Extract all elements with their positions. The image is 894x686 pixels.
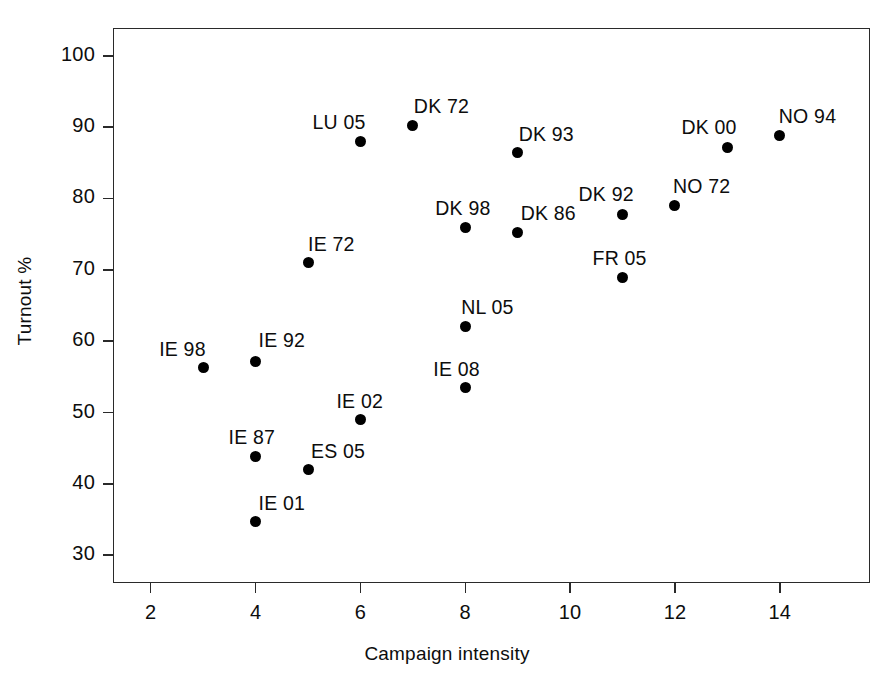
- x-tick-label: 14: [740, 601, 820, 624]
- y-tick-mark: [103, 340, 113, 342]
- data-point: [355, 136, 366, 147]
- data-point: [303, 257, 314, 268]
- data-point-label: DK 98: [435, 197, 490, 220]
- data-point-label: DK 86: [521, 202, 576, 225]
- data-point: [303, 464, 314, 475]
- x-tick-mark: [360, 583, 362, 593]
- data-point: [250, 451, 261, 462]
- data-point-label: IE 72: [308, 233, 355, 256]
- data-point-label: FR 05: [593, 247, 647, 270]
- x-tick-mark: [674, 583, 676, 593]
- x-tick-mark: [569, 583, 571, 593]
- data-point: [460, 222, 471, 233]
- x-tick-label: 10: [530, 601, 610, 624]
- data-point-label: IE 02: [336, 390, 383, 413]
- y-axis-label: Turnout %: [14, 221, 36, 381]
- y-tick-label: 80: [3, 185, 95, 208]
- x-tick-label: 12: [635, 601, 715, 624]
- data-point: [250, 356, 261, 367]
- data-point-label: NO 94: [779, 105, 836, 128]
- x-axis-label: Campaign intensity: [0, 643, 894, 665]
- x-tick-mark: [779, 583, 781, 593]
- x-tick-label: 8: [425, 601, 505, 624]
- data-point: [512, 227, 523, 238]
- data-point-label: IE 98: [159, 338, 206, 361]
- y-tick-mark: [103, 126, 113, 128]
- data-point-label: ES 05: [311, 440, 365, 463]
- data-point-label: NO 72: [673, 175, 730, 198]
- x-tick-mark: [465, 583, 467, 593]
- y-tick-mark: [103, 412, 113, 414]
- data-point-label: DK 93: [519, 123, 574, 146]
- data-point-label: IE 08: [433, 358, 480, 381]
- y-tick-label: 100: [3, 43, 95, 66]
- y-tick-label: 90: [3, 114, 95, 137]
- x-tick-label: 2: [111, 601, 191, 624]
- y-tick-mark: [103, 269, 113, 271]
- x-tick-mark: [150, 583, 152, 593]
- data-point-label: IE 01: [259, 492, 306, 515]
- data-point: [407, 120, 418, 131]
- data-point: [355, 414, 366, 425]
- data-point-label: DK 72: [414, 95, 469, 118]
- data-point-label: LU 05: [312, 111, 365, 134]
- x-tick-label: 4: [216, 601, 296, 624]
- data-point-label: IE 87: [229, 426, 276, 449]
- y-tick-mark: [103, 554, 113, 556]
- data-point-label: DK 00: [681, 116, 736, 139]
- data-point-label: DK 92: [579, 183, 634, 206]
- y-tick-label: 40: [3, 471, 95, 494]
- y-tick-label: 50: [3, 400, 95, 423]
- y-tick-mark: [103, 55, 113, 57]
- x-tick-mark: [255, 583, 257, 593]
- y-tick-mark: [103, 483, 113, 485]
- scatter-plot-figure: 30405060708090100 2468101214 IE 98IE 92I…: [0, 0, 894, 686]
- data-point: [460, 382, 471, 393]
- data-point: [722, 142, 733, 153]
- data-point: [198, 362, 209, 373]
- data-point: [617, 209, 628, 220]
- x-tick-label: 6: [320, 601, 400, 624]
- data-point-label: NL 05: [461, 296, 513, 319]
- y-tick-mark: [103, 198, 113, 200]
- data-point-label: IE 92: [259, 329, 306, 352]
- y-tick-label: 30: [3, 542, 95, 565]
